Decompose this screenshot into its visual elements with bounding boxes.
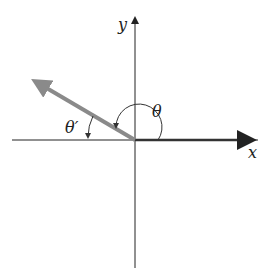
theta-label: θ: [152, 102, 162, 121]
y-axis-label: y: [117, 15, 128, 34]
reference-angle-diagram: y x θ θ′: [0, 0, 274, 279]
x-axis-label: x: [248, 143, 257, 162]
reference-angle-label: θ′: [65, 118, 79, 137]
terminal-side: [38, 83, 135, 140]
reference-angle-arc: [88, 116, 93, 137]
